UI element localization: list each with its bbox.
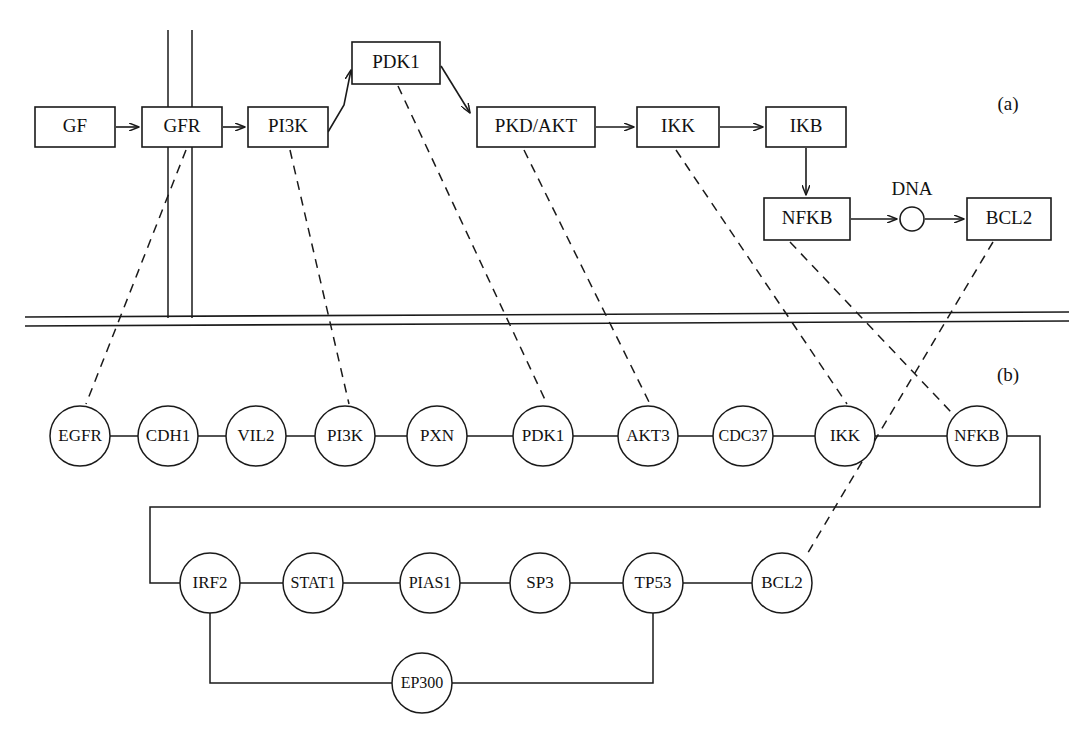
dna-label: DNA [891, 178, 932, 199]
node-box-gf[interactable]: GF [35, 107, 115, 147]
node-circle-cdh1-label: CDH1 [146, 426, 190, 445]
dashed-link-nfkb-to-nfkb [790, 242, 951, 412]
dashed-link-pkdakt-to-akt3 [524, 150, 650, 404]
node-box-gfr-label: GFR [164, 115, 201, 136]
edge-nfkb-irf2-wrap [150, 436, 1040, 583]
node-circle-irf2[interactable]: IRF2 [180, 553, 240, 613]
node-box-bcl2-label: BCL2 [986, 207, 1032, 228]
node-circle-egfr[interactable]: EGFR [50, 406, 110, 466]
panel-b-nodes-bottom: IRF2 STAT1 PIAS1 SP3 TP53 BCL2 [180, 553, 812, 713]
pathway-diagram: GF GFR PI3K PDK1 PKD/AKT IKK [0, 0, 1069, 741]
node-circle-tp53[interactable]: TP53 [623, 553, 683, 613]
node-box-pi3k-label: PI3K [268, 115, 308, 136]
node-circle-bcl2-label: BCL2 [761, 573, 803, 592]
node-circle-pi3k[interactable]: PI3K [315, 406, 375, 466]
node-box-ikk-label: IKK [661, 115, 695, 136]
node-circle-irf2-label: IRF2 [193, 573, 228, 592]
node-circle-stat1[interactable]: STAT1 [283, 553, 343, 613]
node-circle-cdc37[interactable]: CDC37 [713, 406, 773, 466]
node-circle-tp53-label: TP53 [635, 573, 672, 592]
edge-ep300-tp53 [452, 613, 653, 683]
node-circle-pias1-label: PIAS1 [409, 574, 452, 591]
node-circle-pxn[interactable]: PXN [407, 406, 467, 466]
panel-a-nodes: GF GFR PI3K PDK1 PKD/AKT IKK [35, 42, 1051, 240]
node-circle-akt3[interactable]: AKT3 [618, 406, 678, 466]
membrane-line-inner [25, 321, 1069, 326]
node-box-gf-label: GF [63, 115, 87, 136]
node-circle-nfkb-label: NFKB [954, 426, 999, 445]
correspondence-links [86, 86, 993, 556]
node-circle-akt3-label: AKT3 [626, 426, 669, 445]
panel-b-nodes-top: EGFR CDH1 VIL2 PI3K PXN PDK1 [50, 406, 1007, 466]
node-circle-vil2-label: VIL2 [238, 426, 275, 445]
node-circle-stat1-label: STAT1 [291, 574, 336, 591]
node-circle-pi3k-label: PI3K [327, 426, 364, 445]
dna-node[interactable]: DNA [891, 178, 932, 231]
node-box-ikb[interactable]: IKB [766, 107, 846, 147]
node-circle-egfr-label: EGFR [58, 426, 102, 445]
node-box-pdk1-label: PDK1 [372, 51, 420, 72]
node-box-pdk1[interactable]: PDK1 [352, 42, 440, 84]
node-box-pi3k[interactable]: PI3K [248, 107, 328, 147]
node-box-pkd-akt-label: PKD/AKT [495, 115, 578, 136]
node-circle-nfkb[interactable]: NFKB [947, 406, 1007, 466]
edge-irf2-ep300 [210, 613, 392, 683]
node-circle-ikk-label: IKK [830, 426, 861, 445]
node-circle-pias1[interactable]: PIAS1 [400, 553, 460, 613]
node-box-nfkb[interactable]: NFKB [764, 198, 850, 240]
node-circle-cdc37-label: CDC37 [719, 427, 768, 444]
dna-icon [900, 207, 924, 231]
arrow-pi3k-to-pdk1 [328, 70, 351, 132]
node-box-pkd-akt[interactable]: PKD/AKT [477, 107, 595, 147]
node-circle-pdk1-label: PDK1 [522, 426, 565, 445]
node-box-bcl2[interactable]: BCL2 [967, 198, 1051, 240]
panel-label-b: (b) [997, 364, 1019, 386]
arrow-pdk1-to-pkdakt [441, 66, 470, 113]
node-circle-bcl2[interactable]: BCL2 [752, 553, 812, 613]
node-circle-pxn-label: PXN [420, 426, 454, 445]
node-box-nfkb-label: NFKB [782, 207, 833, 228]
node-box-ikk[interactable]: IKK [637, 107, 719, 147]
dashed-link-pi3k-to-pi3k [290, 150, 349, 404]
dashed-link-ikk-to-ikk [676, 150, 847, 404]
node-circle-ep300-label: EP300 [401, 674, 444, 691]
figure-canvas: GF GFR PI3K PDK1 PKD/AKT IKK [0, 0, 1069, 741]
receptor-stems [168, 30, 192, 318]
node-box-gfr[interactable]: GFR [142, 107, 222, 147]
panel-label-a: (a) [997, 93, 1018, 115]
cell-membrane [25, 312, 1069, 326]
node-circle-ep300[interactable]: EP300 [392, 653, 452, 713]
node-circle-pdk1[interactable]: PDK1 [513, 406, 573, 466]
node-circle-ikk[interactable]: IKK [815, 406, 875, 466]
node-circle-sp3-label: SP3 [526, 573, 553, 592]
node-box-ikb-label: IKB [790, 115, 823, 136]
membrane-line-outer [25, 312, 1069, 317]
node-circle-vil2[interactable]: VIL2 [226, 406, 286, 466]
dashed-link-gfr-to-egfr [86, 150, 186, 404]
node-circle-cdh1[interactable]: CDH1 [138, 406, 198, 466]
node-circle-sp3[interactable]: SP3 [510, 553, 570, 613]
